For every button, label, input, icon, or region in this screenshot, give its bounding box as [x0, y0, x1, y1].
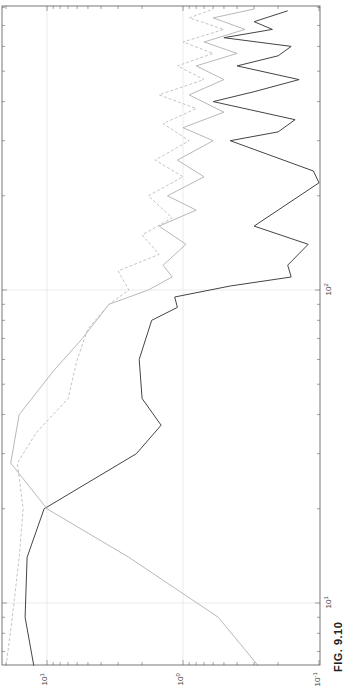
value-tick-label: 100 — [175, 673, 186, 685]
series-light-solid — [11, 9, 259, 666]
value-tick-label: 101 — [39, 673, 50, 685]
figure-caption: FIG. 9.10 — [332, 622, 344, 672]
freq-tick-label: 102 — [323, 283, 334, 295]
grid-lines — [2, 6, 320, 665]
series-light-dashed — [6, 9, 224, 666]
data-series — [6, 9, 319, 666]
series-dark-solid — [25, 11, 319, 666]
value-tick-label: 10-1 — [312, 672, 323, 686]
minor-ticks — [2, 6, 320, 665]
chart-plot-area — [0, 0, 356, 696]
axes-frame — [2, 6, 320, 665]
freq-tick-label: 101 — [323, 596, 334, 608]
